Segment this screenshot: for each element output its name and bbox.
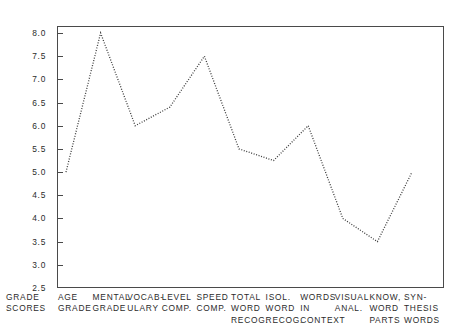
plot-area-frame xyxy=(57,26,444,288)
y-tick-mark xyxy=(57,33,63,34)
y-axis: 8.07.57.06.56.05.55.04.54.03.53.02.5 xyxy=(0,0,57,331)
x-axis-label-10: SYN-THESISWORDS xyxy=(404,292,440,326)
y-tick-mark xyxy=(57,149,63,150)
x-axis-label-9: KNOW,WORDPARTS xyxy=(369,292,401,326)
x-axis-label-line: WORD xyxy=(369,303,401,314)
x-axis-label-line: COMP. xyxy=(162,303,192,314)
y-axis-title: GRADESCORES xyxy=(6,292,46,315)
x-axis-label-3: LEVELCOMP. xyxy=(162,292,192,315)
y-tick-mark xyxy=(57,56,63,57)
x-axis-label-line: GRADE xyxy=(93,303,131,314)
y-tick-mark xyxy=(57,195,63,196)
y-tick-label: 4.0 xyxy=(32,212,46,224)
y-axis-title-line: SCORES xyxy=(6,303,46,314)
x-axis-label-line: SPEED xyxy=(196,292,228,303)
x-axis-labels: GRADESCORESAGEGRADEMENTALGRADEVOCAB-ULAR… xyxy=(0,292,455,331)
x-axis-label-line: KNOW, xyxy=(369,292,401,303)
y-tick-mark xyxy=(57,79,63,80)
grade-scores-line-chart: 8.07.57.06.56.05.55.04.54.03.53.02.5 GRA… xyxy=(0,0,455,331)
x-axis-label-1: MENTALGRADE xyxy=(93,292,131,315)
y-tick-mark xyxy=(57,265,63,266)
y-tick-label: 7.0 xyxy=(32,73,46,85)
x-axis-label-line: MENTAL xyxy=(93,292,131,303)
x-axis-label-line: VISUAL xyxy=(335,292,369,303)
x-axis-label-2: VOCAB-ULARY xyxy=(127,292,164,315)
x-axis-label-line: ANAL. xyxy=(335,303,369,314)
y-tick-label: 3.0 xyxy=(32,259,46,271)
x-axis-label-line: SYN- xyxy=(404,292,440,303)
x-axis-label-line: COMP. xyxy=(196,303,228,314)
y-tick-mark xyxy=(57,242,63,243)
x-axis-label-line: GRADE xyxy=(58,303,92,314)
x-axis-label-line: WORD xyxy=(266,303,304,314)
y-tick-label: 7.5 xyxy=(32,50,46,62)
y-tick-label: 5.0 xyxy=(32,166,46,178)
y-tick-mark xyxy=(57,172,63,173)
x-axis-label-line: WORDS xyxy=(404,315,440,326)
x-axis-label-line: RECOG. xyxy=(231,315,269,326)
y-tick-label: 6.0 xyxy=(32,120,46,132)
y-tick-label: 6.5 xyxy=(32,97,46,109)
x-axis-label-line: RECOG. xyxy=(266,315,304,326)
x-axis-label-line: LEVEL xyxy=(162,292,192,303)
x-axis-label-line: CONTEXT xyxy=(300,315,345,326)
x-axis-label-4: SPEEDCOMP. xyxy=(196,292,228,315)
x-axis-label-8: VISUALANAL. xyxy=(335,292,369,315)
y-tick-label: 8.0 xyxy=(32,27,46,39)
y-tick-mark xyxy=(57,218,63,219)
x-axis-label-line: AGE xyxy=(58,292,92,303)
x-axis-label-6: ISOL.WORDRECOG. xyxy=(266,292,304,326)
x-axis-label-line: TOTAL xyxy=(231,292,269,303)
x-axis-label-line: ULARY xyxy=(127,303,164,314)
x-axis-label-line: VOCAB- xyxy=(127,292,164,303)
y-tick-mark xyxy=(57,103,63,104)
x-axis-label-line: WORD xyxy=(231,303,269,314)
x-axis-label-line: PARTS xyxy=(369,315,401,326)
y-tick-label: 5.5 xyxy=(32,143,46,155)
y-tick-mark xyxy=(57,126,63,127)
x-axis-label-line: ISOL. xyxy=(266,292,304,303)
y-tick-label: 3.5 xyxy=(32,236,46,248)
x-axis-label-0: AGEGRADE xyxy=(58,292,92,315)
x-axis-label-5: TOTALWORDRECOG. xyxy=(231,292,269,326)
y-axis-title-line: GRADE xyxy=(6,292,46,303)
x-axis-label-line: THESIS xyxy=(404,303,440,314)
y-tick-label: 4.5 xyxy=(32,189,46,201)
